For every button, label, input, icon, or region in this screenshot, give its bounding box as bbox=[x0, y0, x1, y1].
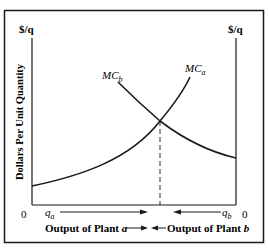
right-axis-unit-label: $/q bbox=[228, 23, 244, 35]
qa-arrowhead-icon bbox=[140, 210, 148, 215]
mc-b-curve bbox=[118, 82, 236, 158]
qa-label: qa bbox=[45, 206, 55, 221]
qb-arrowhead-icon bbox=[173, 210, 181, 215]
mc-b-label: MCb bbox=[101, 69, 123, 84]
plant-output-allocation-diagram: $/q $/q Dollars Per Unit Quantity 0 0 qa… bbox=[0, 0, 268, 251]
output-plant-a-label: Output of Plant a bbox=[45, 222, 128, 234]
y-axis-title: Dollars Per Unit Quantity bbox=[14, 63, 25, 180]
output-a-arrowhead-icon bbox=[141, 226, 148, 231]
mc-a-label: MCa bbox=[184, 62, 206, 77]
left-axis-unit-label: $/q bbox=[19, 23, 35, 35]
origin-left: 0 bbox=[21, 208, 27, 220]
output-plant-b-label: Output of Plant b bbox=[167, 222, 250, 234]
qb-label: qb bbox=[222, 206, 232, 221]
mc-a-curve bbox=[32, 77, 190, 186]
origin-right: 0 bbox=[242, 208, 248, 220]
